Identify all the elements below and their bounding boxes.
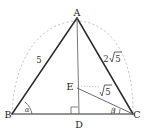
right-angle-marker-d [71,107,78,114]
vertex-label-a: A [73,7,81,18]
segment-ec-radicand: 5 [105,87,110,97]
vertex-label-b: B [5,109,12,120]
vertex-label-d: D [75,119,83,130]
segment-ab [12,18,77,114]
segment-ad-altitude [77,18,79,114]
angle-label-beta: β [110,107,115,115]
side-ac-coefficient: 2 [103,54,108,64]
geometry-canvas: A B C D E 5 2 5 5 α β [0,0,146,130]
dashed-circumscribed-arc [12,21,133,114]
side-ab-length-label: 5 [36,55,41,65]
vertex-label-c: C [133,109,140,120]
angle-label-alpha: α [25,106,30,114]
segment-ec-guide [81,86,100,87]
segment-ac [77,18,133,114]
vertex-label-e: E [67,81,74,92]
geometry-figure: A B C D E 5 2 5 5 α β [0,0,146,130]
side-ac-radicand: 5 [115,54,120,64]
angle-arc-beta-outer [119,109,120,114]
